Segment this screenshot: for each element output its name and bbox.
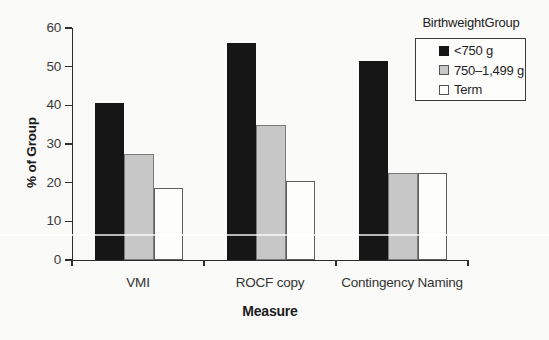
legend-swatch	[439, 65, 449, 75]
x-tick-mark	[71, 261, 73, 266]
legend-item-label: <750 g	[454, 43, 493, 58]
plot-area	[72, 28, 469, 261]
bar	[154, 188, 184, 260]
y-tick-mark	[65, 27, 72, 29]
x-category-label: Contingency Naming	[332, 275, 472, 290]
legend-title: BirthweightGroup	[400, 15, 542, 30]
x-tick-mark	[467, 261, 469, 266]
bar	[418, 173, 448, 260]
x-category-label: ROCF copy	[200, 275, 340, 290]
y-tick-label: 60	[30, 20, 61, 35]
y-tick-label: 30	[30, 136, 61, 151]
y-tick-mark	[65, 66, 72, 68]
bar	[227, 43, 257, 260]
bar	[359, 61, 389, 260]
y-tick-mark	[65, 105, 72, 107]
y-tick-mark	[65, 182, 72, 184]
legend-swatch	[439, 85, 449, 95]
bar-chart-figure: % of Group Measure BirthweightGroup <750…	[0, 0, 549, 340]
legend: <750 g750–1,499 gTerm	[415, 38, 526, 101]
y-tick-label: 10	[30, 213, 61, 228]
bar	[124, 154, 154, 260]
x-category-label: VMI	[68, 275, 208, 290]
x-tick-mark	[335, 261, 337, 266]
legend-item: <750 g	[416, 41, 525, 61]
legend-item: 750–1,499 g	[416, 61, 525, 81]
bar	[286, 181, 316, 260]
legend-item: Term	[416, 80, 525, 100]
x-tick-mark	[203, 261, 205, 266]
legend-swatch	[439, 46, 449, 56]
y-tick-label: 20	[30, 175, 61, 190]
y-tick-label: 0	[30, 252, 61, 267]
y-tick-mark	[65, 143, 72, 145]
y-tick-label: 40	[30, 97, 61, 112]
y-tick-mark	[65, 221, 72, 223]
x-axis-title: Measure	[200, 303, 340, 319]
bar	[256, 125, 286, 260]
bar	[388, 173, 418, 260]
bar	[95, 103, 125, 260]
legend-item-label: Term	[454, 82, 482, 97]
y-tick-label: 50	[30, 59, 61, 74]
legend-item-label: 750–1,499 g	[454, 63, 524, 78]
